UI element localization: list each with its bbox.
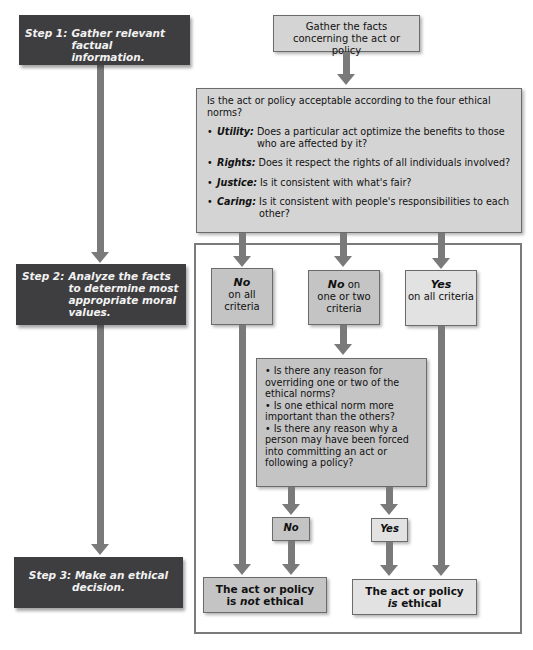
norm-term: Caring: [217,196,259,219]
criteria-rest: on all criteria [408,291,474,302]
result-line1: The act or policy [216,583,314,595]
arrow-shaft [386,487,393,505]
norm-desc: Does it respect the rights of all indivi… [259,157,511,169]
answer-no-box: No [272,517,310,541]
norm-term: Justice: [217,177,260,189]
step-1-box: Step 1: Gather relevant factual informat… [19,15,190,65]
result-line1: The act or policy [365,585,463,597]
arrow-down-icon [334,344,352,355]
result-post: ethical [260,595,304,607]
arrow-shaft [386,542,393,566]
gather-facts-box: Gather the facts concerning the act or p… [273,15,420,52]
arrow-shaft [288,487,295,505]
norms-question: Is the act or policy acceptable accordin… [207,95,511,118]
arrow-down-icon [432,258,450,269]
arrow-shaft [340,233,347,257]
arrow-shaft [340,325,347,345]
criteria-emph: No [328,278,345,291]
step-1-label: Step 1: [25,27,71,63]
step-3-box: Step 3: Make an ethical decision. [14,557,183,608]
criteria-emph: Yes [431,278,452,291]
arrow-shaft [438,233,445,259]
criteria-emph: No [234,276,251,289]
arrow-down-icon [91,544,109,555]
bullet-icon: • [207,126,217,149]
step-2-text: Analyze the facts to determine most appr… [68,270,180,318]
arrow-shaft [239,233,246,257]
norm-desc: Is it consistent with what's fair? [260,177,511,189]
result-not-ethical-box: The act or policy is not ethical [203,577,327,613]
result-ethical-box: The act or policy is ethical [352,579,477,615]
arrow-down-icon [432,565,450,576]
arrow-down-icon [282,504,300,515]
result-emph: not [240,595,260,607]
step-2-label: Step 2: [22,270,68,318]
answer-no-label: No [283,522,298,533]
norm-rights: • Rights: Does it respect the rights of … [207,157,511,169]
ethical-norms-box: Is the act or policy acceptable accordin… [196,88,522,233]
criteria-inline: on [345,279,361,290]
gather-facts-text: Gather the facts concerning the act or p… [293,21,400,56]
step-2-box: Step 2: Analyze the facts to determine m… [16,264,186,325]
arrow-shaft [288,541,295,565]
arrow-shaft [438,326,445,566]
result-post: ethical [398,597,442,609]
result-emph: is [388,597,398,609]
arrow-down-icon [91,252,109,263]
norm-term: Utility: [217,126,257,149]
norms-list: • Utility: Does a particular act optimiz… [207,126,511,219]
criteria-yes-all-box: Yes on all criteria [405,270,477,326]
question-item: • Is there any reason why a person may h… [265,423,418,469]
step-3-text: Make an ethical decision. [72,569,168,593]
bullet-icon: • [207,196,217,219]
bullet-icon: • [207,177,217,189]
criteria-no-some-box: No on one or two criteria [308,270,380,325]
norm-utility: • Utility: Does a particular act optimiz… [207,126,511,149]
step-3-label: Step 3: [29,569,71,581]
norm-desc: Is it consistent with people's responsib… [259,196,511,219]
norm-caring: • Caring: Is it consistent with people's… [207,196,511,219]
result-pre: is [226,595,240,607]
questions-box: • Is there any reason for overriding one… [256,358,427,487]
arrow-down-icon [334,256,352,267]
arrow-down-icon [380,565,398,576]
question-item: • Is there any reason for overriding one… [265,365,418,400]
norm-desc: Does a particular act optimize the benef… [257,126,511,149]
bullet-icon: • [207,157,217,169]
answer-yes-label: Yes [380,523,399,534]
arrow-shaft [239,325,246,565]
norm-term: Rights: [217,157,259,169]
arrow-down-icon [233,564,251,575]
criteria-rest: on all criteria [224,289,259,312]
arrow-down-icon [233,256,251,267]
arrow-down-icon [282,564,300,575]
arrow-down-icon [337,74,355,85]
arrow-shaft [343,52,350,74]
question-item: • Is one ethical norm more important tha… [265,400,418,423]
answer-yes-box: Yes [371,518,408,542]
step-connector-1 [97,64,104,254]
step-connector-2 [97,324,104,546]
norm-justice: • Justice: Is it consistent with what's … [207,177,511,189]
criteria-no-all-box: No on all criteria [211,268,273,325]
criteria-rest: one or two criteria [317,291,370,314]
arrow-down-icon [380,504,398,515]
step-1-text: Gather relevant factual information. [71,27,184,63]
